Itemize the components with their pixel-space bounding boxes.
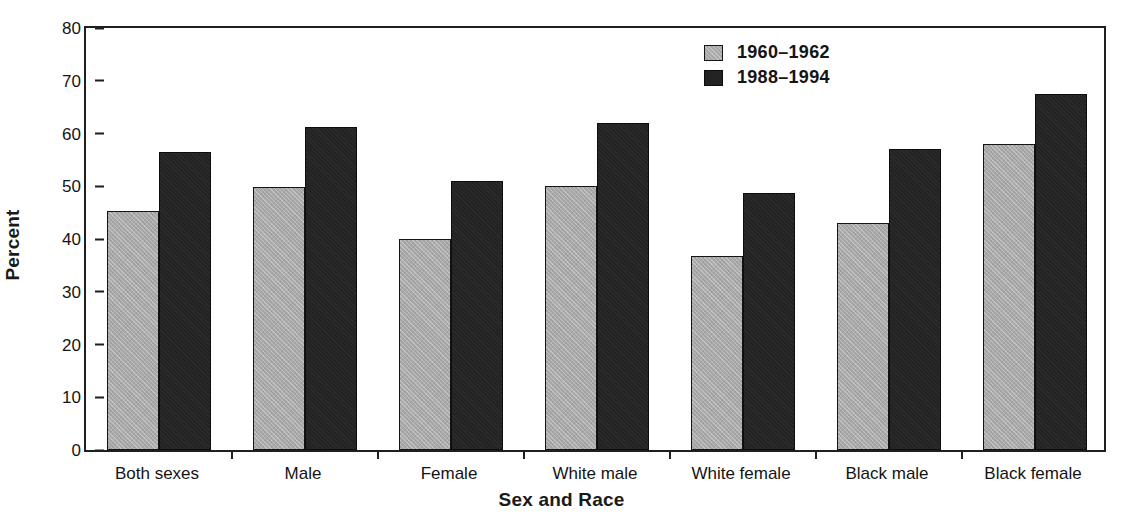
bar bbox=[743, 193, 795, 450]
chart-legend: 1960–1962 1988–1994 bbox=[704, 40, 830, 90]
y-tick: 30 bbox=[62, 283, 86, 300]
bar-group bbox=[691, 28, 795, 450]
x-tick-mark bbox=[669, 450, 671, 459]
bar bbox=[597, 123, 649, 450]
bar-group bbox=[107, 28, 211, 450]
legend-item: 1960–1962 bbox=[704, 40, 830, 65]
y-tick-mark bbox=[95, 344, 104, 346]
y-tick-label: 40 bbox=[62, 231, 86, 248]
bar bbox=[691, 256, 743, 450]
bar bbox=[159, 152, 211, 450]
y-tick-label: 30 bbox=[62, 283, 86, 300]
x-tick-mark bbox=[377, 450, 379, 459]
bar bbox=[399, 239, 451, 450]
y-tick: 10 bbox=[62, 389, 86, 406]
y-tick: 60 bbox=[62, 125, 86, 142]
x-tick-mark bbox=[231, 450, 233, 459]
y-tick: 20 bbox=[62, 336, 86, 353]
x-tick-mark bbox=[815, 450, 817, 459]
y-tick-mark bbox=[95, 396, 104, 398]
y-tick: 0 bbox=[72, 442, 86, 459]
x-tick-label: Female bbox=[421, 464, 478, 484]
y-tick: 80 bbox=[62, 20, 86, 37]
x-tick-label: Both sexes bbox=[115, 464, 199, 484]
y-tick-label: 60 bbox=[62, 125, 86, 142]
y-tick-label: 50 bbox=[62, 178, 86, 195]
bar-group bbox=[837, 28, 941, 450]
bars-container bbox=[86, 28, 1104, 450]
bar bbox=[837, 223, 889, 450]
y-tick: 70 bbox=[62, 72, 86, 89]
y-tick: 40 bbox=[62, 231, 86, 248]
x-tick-label: Black female bbox=[984, 464, 1081, 484]
x-tick-mark bbox=[961, 450, 963, 459]
bar-group bbox=[983, 28, 1087, 450]
y-tick-label: 80 bbox=[62, 20, 86, 37]
bar bbox=[889, 149, 941, 450]
bar bbox=[451, 181, 503, 450]
x-tick-label: White male bbox=[552, 464, 637, 484]
x-tick-label: White female bbox=[691, 464, 790, 484]
y-tick: 50 bbox=[62, 178, 86, 195]
y-tick-label: 0 bbox=[72, 442, 86, 459]
x-tick-label: Male bbox=[285, 464, 322, 484]
y-tick-mark bbox=[95, 449, 104, 451]
y-tick-label: 20 bbox=[62, 336, 86, 353]
y-tick-mark bbox=[95, 291, 104, 293]
bar bbox=[107, 211, 159, 450]
dark-swatch-icon bbox=[704, 70, 723, 86]
y-axis-title: Percent bbox=[2, 185, 24, 305]
y-tick-label: 10 bbox=[62, 389, 86, 406]
y-tick-label: 70 bbox=[62, 72, 86, 89]
bar bbox=[545, 186, 597, 450]
legend-label: 1988–1994 bbox=[737, 67, 830, 88]
legend-item: 1988–1994 bbox=[704, 65, 830, 90]
x-tick-mark bbox=[523, 450, 525, 459]
chart-figure: Percent 01020304050607080 Both sexesMale… bbox=[0, 0, 1123, 520]
plot-area: 01020304050607080 bbox=[84, 26, 1106, 452]
x-axis-tick-labels: Both sexesMaleFemaleWhite maleWhite fema… bbox=[84, 464, 1106, 490]
y-tick-mark bbox=[95, 133, 104, 135]
gray-swatch-icon bbox=[704, 45, 723, 61]
x-tick-label: Black male bbox=[845, 464, 928, 484]
bar-group bbox=[545, 28, 649, 450]
y-tick-mark bbox=[95, 27, 104, 29]
legend-label: 1960–1962 bbox=[737, 42, 830, 63]
y-tick-mark bbox=[95, 80, 104, 82]
bar bbox=[1035, 94, 1087, 450]
bar-group bbox=[253, 28, 357, 450]
y-tick-mark bbox=[95, 185, 104, 187]
y-tick-mark bbox=[95, 238, 104, 240]
bar bbox=[305, 127, 357, 450]
x-axis-title: Sex and Race bbox=[0, 489, 1123, 511]
bar bbox=[253, 187, 305, 450]
bar-group bbox=[399, 28, 503, 450]
bar bbox=[983, 144, 1035, 450]
